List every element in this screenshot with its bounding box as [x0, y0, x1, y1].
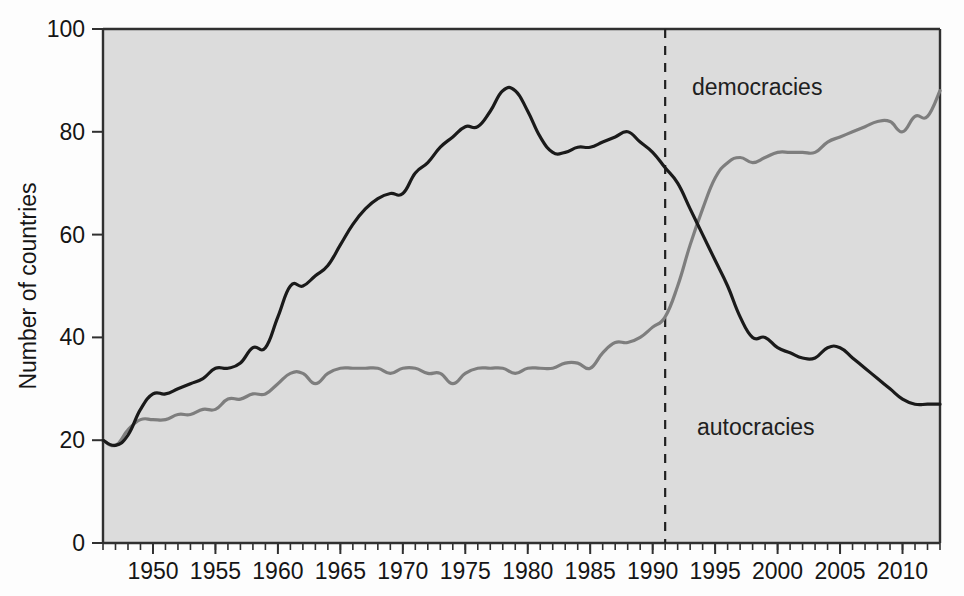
- x-tick-label: 2010: [877, 558, 928, 584]
- line-chart: 020406080100 195019551960196519701975198…: [0, 0, 964, 596]
- x-tick-label: 2000: [752, 558, 803, 584]
- y-tick-label: 40: [59, 324, 85, 350]
- y-tick-label: 60: [59, 222, 85, 248]
- x-tick-label: 1980: [502, 558, 553, 584]
- x-tick-label: 1990: [627, 558, 678, 584]
- y-axis-tick-labels: 020406080100: [47, 16, 85, 556]
- x-tick-label: 1955: [190, 558, 241, 584]
- x-tick-label: 1975: [440, 558, 491, 584]
- annotation-democracies: democracies: [692, 74, 822, 100]
- y-tick-label: 80: [59, 119, 85, 145]
- x-axis-tick-labels: 1950195519601965197019751980198519901995…: [127, 558, 928, 584]
- x-tick-label: 1965: [315, 558, 366, 584]
- plot-area-background: [103, 29, 940, 543]
- y-tick-label: 20: [59, 427, 85, 453]
- y-axis-major-ticks: [92, 29, 103, 543]
- x-tick-label: 2005: [814, 558, 865, 584]
- x-tick-label: 1995: [690, 558, 741, 584]
- y-tick-label: 0: [72, 530, 85, 556]
- y-tick-label: 100: [47, 16, 85, 42]
- x-tick-label: 1950: [127, 558, 178, 584]
- x-tick-label: 1985: [565, 558, 616, 584]
- annotation-autocracies: autocracies: [697, 414, 815, 440]
- y-axis-title: Number of countries: [15, 182, 41, 389]
- chart-figure: 020406080100 195019551960196519701975198…: [0, 0, 964, 596]
- x-tick-label: 1960: [252, 558, 303, 584]
- x-tick-label: 1970: [377, 558, 428, 584]
